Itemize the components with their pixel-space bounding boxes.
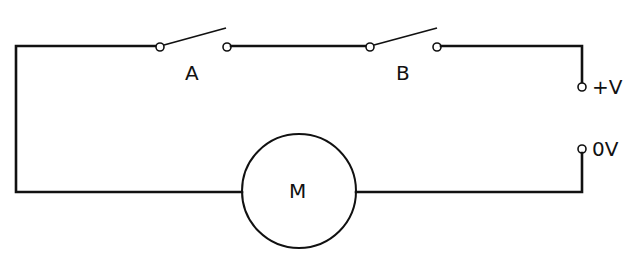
switch-a-label: A bbox=[185, 63, 199, 83]
wire-b-positive bbox=[441, 46, 582, 83]
circuit-diagram bbox=[0, 0, 644, 266]
switch-b-lever bbox=[374, 28, 437, 45]
wire-left bbox=[16, 46, 242, 192]
switch-b-label: B bbox=[396, 63, 410, 83]
zero-terminal-label: 0V bbox=[592, 139, 618, 159]
switch-a-lever bbox=[164, 28, 226, 45]
motor-label: M bbox=[289, 181, 306, 201]
positive-terminal bbox=[578, 83, 586, 91]
switch-b bbox=[366, 28, 441, 51]
switch-b-terminal-left bbox=[366, 43, 374, 51]
wire-zero-motor bbox=[356, 153, 582, 192]
positive-terminal-label: +V bbox=[592, 77, 622, 97]
switch-a-terminal-left bbox=[156, 43, 164, 51]
switch-a bbox=[156, 28, 231, 51]
